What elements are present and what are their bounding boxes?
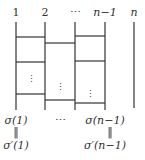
- bottom-label-ellipsis: ⋯: [55, 114, 66, 127]
- vertical-ellipsis-1: ⋮: [27, 74, 36, 84]
- vertical-ellipsis-2: ⋮: [56, 82, 65, 92]
- bottom-label-sigma-prime-1: σ′(1): [3, 139, 29, 152]
- top-label-n: n: [130, 6, 137, 19]
- top-label-1: 1: [13, 6, 20, 19]
- equals-sign-1: ‖: [13, 125, 19, 139]
- vertical-ellipsis-3: ⋮: [86, 89, 95, 99]
- top-label-ellipsis: ⋯: [70, 6, 81, 19]
- bottom-label-sigma-n-minus-1: σ(n−1): [85, 114, 124, 127]
- bottom-label-sigma-prime-n-minus-1: σ′(n−1): [84, 139, 126, 152]
- vertical-lines: [16, 22, 134, 110]
- top-label-2: 2: [42, 6, 49, 19]
- ladder-diagram: 1 2 ⋯ n−1 n ⋮ ⋮ ⋮ σ(1) ‖ σ′(1) ⋯ σ(n−1) …: [0, 0, 145, 160]
- top-label-n-minus-1: n−1: [93, 6, 116, 19]
- equals-sign-n-minus-1: ‖: [107, 125, 113, 139]
